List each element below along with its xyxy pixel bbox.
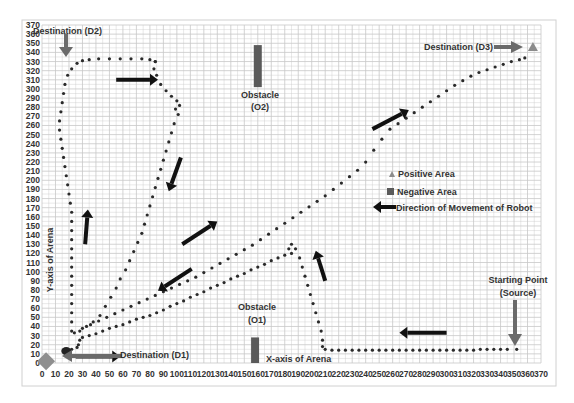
- path-point: [119, 277, 122, 280]
- path-point: [294, 247, 297, 250]
- path-point: [311, 302, 314, 305]
- path-point: [98, 314, 101, 317]
- path-point: [132, 250, 135, 253]
- path-point: [101, 329, 104, 332]
- path-point: [251, 244, 254, 247]
- x-tick-label: 240: [359, 369, 373, 379]
- path-point: [290, 243, 293, 246]
- x-tick-label: 100: [170, 369, 184, 379]
- x-tick-label: 260: [386, 369, 400, 379]
- path-point: [371, 349, 374, 352]
- path-point: [477, 71, 480, 74]
- y-axis-title: Y-axis of Arena: [45, 227, 55, 293]
- destination-d2-label: Destination (D2): [33, 26, 102, 36]
- y-tick-label: 40: [31, 321, 41, 331]
- path-point: [372, 149, 375, 152]
- path-point: [169, 305, 172, 308]
- path-point: [151, 195, 154, 198]
- path-point: [321, 339, 324, 342]
- path-point: [155, 311, 158, 314]
- path-point: [78, 329, 81, 332]
- legend-negative-area: Negative Area: [397, 187, 458, 197]
- robot-path-chart: 0102030405060708090100110120130140150160…: [0, 0, 574, 403]
- path-point: [380, 138, 383, 141]
- y-tick-label: 10: [31, 349, 41, 359]
- path-point: [218, 262, 221, 265]
- x-tick-label: 270: [399, 369, 413, 379]
- path-point: [510, 60, 513, 63]
- path-point: [388, 128, 391, 131]
- path-point: [59, 110, 62, 113]
- path-point: [70, 329, 73, 332]
- x-tick-label: 200: [305, 369, 319, 379]
- x-tick-label: 90: [159, 369, 169, 379]
- y-tick-label: 90: [31, 276, 41, 286]
- path-point: [499, 348, 502, 351]
- path-point: [75, 346, 78, 349]
- x-tick-label: 300: [440, 369, 454, 379]
- path-point: [174, 107, 177, 110]
- path-point: [243, 248, 246, 251]
- path-point: [384, 349, 387, 352]
- path-point: [70, 293, 73, 296]
- path-point: [70, 265, 73, 268]
- path-point: [148, 314, 151, 317]
- path-point: [81, 336, 84, 339]
- x-tick-label: 160: [251, 369, 265, 379]
- path-point: [256, 265, 259, 268]
- path-point: [170, 286, 173, 289]
- obstacle-o1-label-line1: Obstacle: [238, 302, 276, 312]
- y-tick-label: 290: [26, 93, 40, 103]
- path-point: [309, 293, 312, 296]
- path-point: [62, 156, 65, 159]
- path-point: [178, 104, 181, 107]
- y-tick-label: 250: [26, 130, 40, 140]
- x-tick-label: 60: [118, 369, 128, 379]
- path-point: [70, 275, 73, 278]
- y-tick-label: 100: [26, 267, 40, 277]
- path-point: [115, 325, 118, 328]
- path-point: [88, 58, 91, 61]
- path-point: [216, 284, 219, 287]
- x-tick-label: 70: [132, 369, 142, 379]
- path-point: [202, 290, 205, 293]
- x-tick-label: 310: [453, 369, 467, 379]
- x-tick-label: 150: [237, 369, 251, 379]
- path-point: [59, 138, 62, 141]
- path-point: [186, 279, 189, 282]
- path-point: [109, 296, 112, 299]
- path-point: [337, 349, 340, 352]
- path-point: [357, 349, 360, 352]
- path-point: [61, 101, 64, 104]
- destination-d3-label: Destination (D3): [424, 42, 493, 52]
- path-point: [70, 67, 73, 70]
- path-point: [411, 349, 414, 352]
- y-tick-label: 240: [26, 139, 40, 149]
- path-point: [136, 241, 139, 244]
- path-point: [356, 169, 359, 172]
- path-point: [413, 111, 416, 114]
- path-point: [129, 305, 132, 308]
- path-point: [194, 276, 197, 279]
- x-tick-label: 180: [278, 369, 292, 379]
- x-tick-label: 370: [534, 369, 548, 379]
- path-point: [156, 177, 159, 180]
- path-point: [453, 84, 456, 87]
- x-tick-label: 250: [372, 369, 386, 379]
- path-point: [364, 349, 367, 352]
- y-tick-label: 30: [31, 331, 41, 341]
- path-point: [236, 275, 239, 278]
- x-tick-label: 340: [493, 369, 507, 379]
- path-point: [70, 247, 73, 250]
- path-point: [479, 348, 482, 351]
- y-tick-label: 170: [26, 203, 40, 213]
- path-point: [291, 216, 294, 219]
- path-point: [348, 175, 351, 178]
- path-point: [437, 95, 440, 98]
- path-point: [65, 174, 68, 177]
- x-tick-label: 360: [520, 369, 534, 379]
- path-point: [502, 63, 505, 66]
- path-point: [92, 320, 95, 323]
- path-point: [124, 268, 127, 271]
- path-point: [222, 281, 225, 284]
